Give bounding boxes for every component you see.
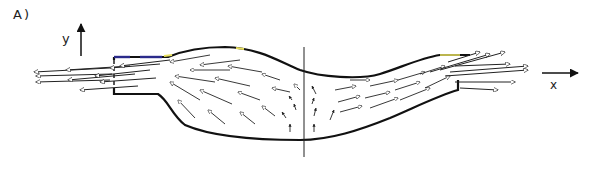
right-outflow-arrows xyxy=(430,52,528,90)
interior-arrows-left xyxy=(170,55,300,124)
left-outflow-arrows xyxy=(34,60,170,90)
flow-field-diagram xyxy=(0,0,594,183)
center-small-arrows xyxy=(282,86,334,132)
interior-arrows-right xyxy=(335,66,450,112)
